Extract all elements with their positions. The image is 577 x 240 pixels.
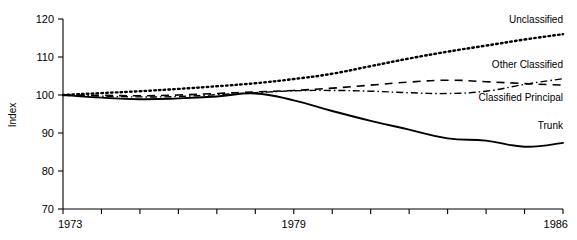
x-tick-label: 1973 — [58, 218, 82, 230]
y-axis-ticks — [58, 19, 63, 209]
y-tick-label: 70 — [42, 203, 54, 215]
y-axis-group: 708090100110120 — [36, 13, 63, 215]
series-lines — [63, 34, 563, 147]
series-label-unclassified: Unclassified — [509, 14, 563, 25]
series-label-classified-principal: Classified Principal — [479, 92, 563, 103]
y-axis-tick-labels: 708090100110120 — [36, 13, 54, 215]
x-tick-label: 1986 — [544, 218, 568, 230]
y-tick-label: 90 — [42, 127, 54, 139]
line-chart: 708090100110120 197319791986 Index Uncla… — [0, 0, 577, 240]
x-tick-label: 1979 — [282, 218, 306, 230]
series-label-other-classified: Other Classified — [492, 59, 563, 70]
chart-container: 708090100110120 197319791986 Index Uncla… — [0, 0, 577, 240]
x-axis-group: 197319791986 — [58, 209, 568, 230]
series-line-unclassified — [63, 34, 563, 95]
x-axis-ticks — [63, 209, 563, 214]
series-label-trunk: Trunk — [538, 120, 564, 131]
y-axis-title: Index — [7, 103, 18, 127]
y-tick-label: 100 — [36, 89, 54, 101]
y-tick-label: 80 — [42, 165, 54, 177]
y-tick-label: 120 — [36, 13, 54, 25]
x-axis-tick-labels: 197319791986 — [58, 218, 568, 230]
series-labels: UnclassifiedOther ClassifiedClassified P… — [479, 14, 564, 131]
y-tick-label: 110 — [36, 51, 54, 63]
